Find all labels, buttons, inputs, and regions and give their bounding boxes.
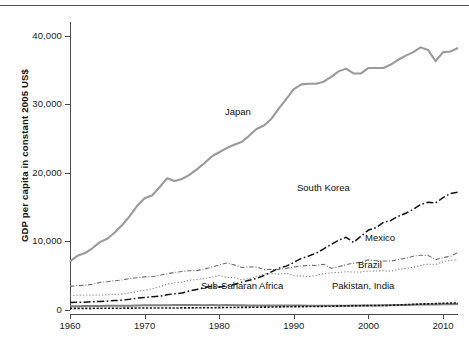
series-label-japan: Japan: [225, 107, 251, 117]
series-lines: [70, 22, 458, 310]
series-line-japan: [70, 47, 458, 261]
x-axis-spine: [70, 314, 458, 315]
y-tick-label: 20,000: [0, 168, 62, 178]
x-tick-mark: [443, 314, 444, 319]
x-tick-mark: [219, 314, 220, 319]
x-tick-mark: [70, 314, 71, 319]
y-tick-label: 10,000: [0, 236, 62, 246]
series-label-south-korea: South Korea: [297, 183, 350, 193]
series-line-sub-saharan-africa: [70, 304, 458, 306]
x-tick-label: 1960: [45, 321, 95, 331]
x-tick-label: 1990: [269, 321, 319, 331]
y-tick-mark: [65, 310, 70, 311]
x-tick-mark: [368, 314, 369, 319]
x-tick-label: 2000: [343, 321, 393, 331]
plot-area: [70, 22, 458, 310]
series-label-mexico: Mexico: [365, 233, 395, 243]
x-tick-label: 2010: [418, 321, 468, 331]
y-tick-label: 0: [0, 305, 62, 315]
x-tick-label: 1970: [120, 321, 170, 331]
x-tick-mark: [294, 314, 295, 319]
y-tick-label: 40,000: [0, 31, 62, 41]
x-tick-label: 1980: [194, 321, 244, 331]
y-tick-label: 30,000: [0, 99, 62, 109]
chart-figure: 010,00020,00030,00040,000 19601970198019…: [0, 0, 469, 337]
series-label-brazil: Brazil: [358, 260, 382, 270]
top-divider: [0, 5, 469, 6]
series-label-sub-saharan-africa: Sub-Saharan Africa: [201, 281, 283, 291]
series-label-pakistan-india: Pakistan, India: [332, 281, 394, 291]
y-axis-title: GDP per capita in constant 2005 US$: [19, 46, 30, 266]
x-tick-mark: [145, 314, 146, 319]
